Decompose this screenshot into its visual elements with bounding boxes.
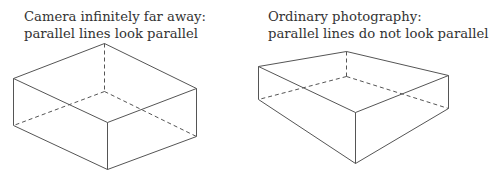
visible-edge (259, 52, 347, 67)
visible-edge (356, 109, 449, 164)
hidden-edge (259, 77, 347, 100)
visible-edge (108, 89, 197, 123)
orthographic-box-drawing (14, 44, 197, 170)
visible-edge (14, 44, 105, 79)
visible-edge (259, 100, 356, 164)
perspective-box-drawing (259, 52, 449, 164)
visible-edge (108, 137, 197, 170)
visible-edge (14, 126, 108, 170)
visible-edge (356, 76, 449, 113)
hidden-edge (105, 92, 197, 137)
visible-edge (259, 67, 356, 113)
visible-edge (105, 44, 197, 89)
hidden-edge (14, 92, 105, 126)
visible-edge (347, 52, 449, 76)
visible-edge (14, 79, 108, 123)
